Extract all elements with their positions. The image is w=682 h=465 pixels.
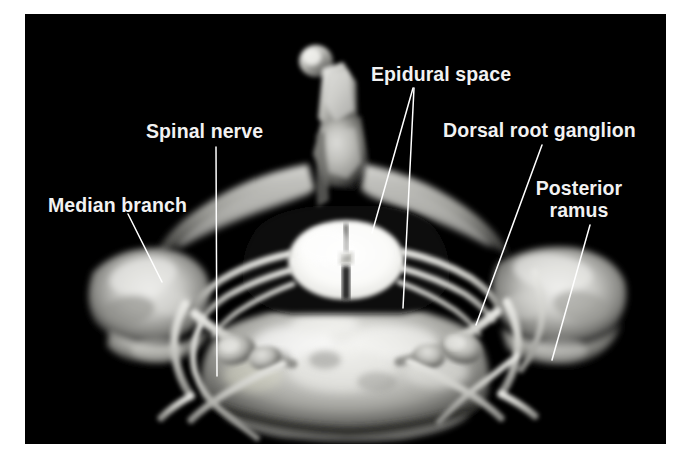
anterior-median-fissure <box>342 266 350 300</box>
vertebral-body <box>201 302 489 442</box>
label-epidural-space: Epidural space <box>371 63 511 85</box>
photograph-frame: Median branch Spinal nerve Epidural spac… <box>25 14 666 444</box>
label-dorsal-root-ganglion: Dorsal root ganglion <box>443 119 636 141</box>
label-posterior-ramus-line2: ramus <box>531 199 627 221</box>
label-posterior-ramus-line1: Posterior <box>531 177 627 199</box>
label-median-branch: Median branch <box>48 194 187 216</box>
leader-spinal-nerve <box>216 147 217 376</box>
spinal-cord <box>288 220 404 300</box>
cross-section-image <box>25 14 666 444</box>
label-spinal-nerve: Spinal nerve <box>146 120 263 142</box>
anatomical-figure: Median branch Spinal nerve Epidural spac… <box>0 0 682 465</box>
